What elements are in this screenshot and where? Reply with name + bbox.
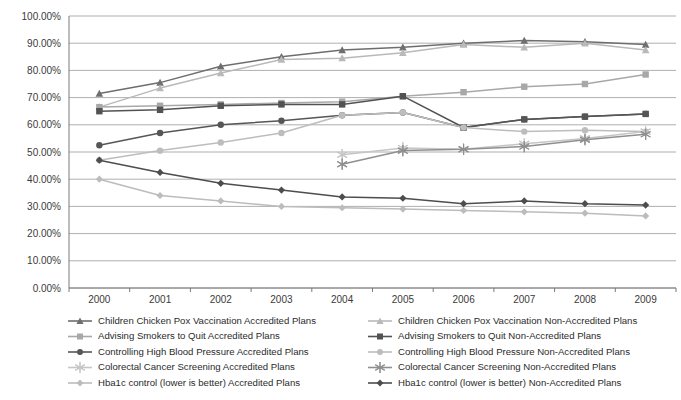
legend-item[interactable]: Children Chicken Pox Vaccination Accredi… — [68, 315, 316, 326]
data-point-circle — [582, 113, 588, 119]
data-point-diamond — [460, 207, 467, 214]
legend-item[interactable]: Colorectal Cancer Screening Non-Accredit… — [368, 361, 616, 373]
data-point-diamond — [642, 201, 649, 208]
data-point-diamond — [156, 192, 163, 199]
x-tick-label: 2004 — [331, 294, 354, 305]
data-point-diamond — [96, 157, 103, 164]
x-axis-tick-labels: 2000200120022003200420052006200720082009 — [69, 288, 676, 305]
data-point-diamond — [377, 380, 384, 387]
series-line — [99, 96, 645, 127]
data-point-square — [77, 334, 83, 340]
data-point-diamond — [278, 203, 285, 210]
data-point-diamond — [339, 193, 346, 200]
data-point-circle — [460, 124, 466, 130]
y-tick-label: 0.00% — [33, 283, 61, 294]
data-point-circle — [400, 109, 406, 115]
data-point-square — [521, 84, 527, 90]
series-line — [99, 113, 645, 161]
data-point-square — [278, 101, 284, 107]
legend-label: Colorectal Cancer Screening Accredited P… — [98, 361, 295, 372]
x-tick-label: 2008 — [574, 294, 597, 305]
x-tick-label: 2007 — [513, 294, 536, 305]
legend-item[interactable]: Hba1c control (lower is better) Non-Accr… — [368, 377, 622, 388]
y-tick-label: 80.00% — [27, 65, 61, 76]
data-point-square — [400, 93, 406, 99]
data-point-square — [377, 334, 383, 340]
x-tick-label: 2002 — [210, 294, 233, 305]
data-point-circle — [96, 142, 102, 148]
line-chart: 0.00%10.00%20.00%30.00%40.00%50.00%60.00… — [0, 0, 681, 400]
x-tick-label: 2009 — [634, 294, 657, 305]
legend-item[interactable]: Hba1c control (lower is better) Accredit… — [68, 377, 300, 388]
y-tick-label: 30.00% — [27, 201, 61, 212]
data-point-square — [157, 107, 163, 113]
y-tick-label: 90.00% — [27, 38, 61, 49]
data-point-diamond — [96, 176, 103, 183]
legend-label: Hba1c control (lower is better) Non-Accr… — [398, 377, 622, 388]
data-point-circle — [278, 118, 284, 124]
legend-label: Controlling High Blood Pressure Accredit… — [98, 346, 309, 357]
legend-label: Controlling High Blood Pressure Non-Accr… — [398, 346, 630, 357]
x-tick-label: 2005 — [392, 294, 415, 305]
data-point-diamond — [521, 208, 528, 215]
data-point-square — [582, 81, 588, 87]
legend-label: Children Chicken Pox Vaccination Accredi… — [98, 315, 316, 326]
data-point-circle — [521, 128, 527, 134]
y-tick-label: 50.00% — [27, 147, 61, 158]
data-point-square — [460, 89, 466, 95]
data-point-circle — [582, 127, 588, 133]
data-point-circle — [157, 147, 163, 153]
legend-item[interactable]: Controlling High Blood Pressure Accredit… — [68, 346, 309, 357]
legend-item[interactable]: Colorectal Cancer Screening Accredited P… — [68, 361, 295, 373]
y-tick-label: 20.00% — [27, 228, 61, 239]
x-tick-label: 2003 — [270, 294, 293, 305]
y-tick-label: 10.00% — [27, 255, 61, 266]
data-point-square — [96, 108, 102, 114]
series-0 — [96, 37, 650, 97]
legend-label: Colorectal Cancer Screening Non-Accredit… — [398, 361, 616, 372]
series-9 — [96, 157, 650, 209]
data-series-group — [96, 37, 651, 220]
legend-item[interactable]: Children Chicken Pox Vaccination Non-Acc… — [368, 315, 637, 326]
y-tick-label: 40.00% — [27, 174, 61, 185]
series-line — [99, 75, 645, 108]
data-point-circle — [339, 112, 345, 118]
x-tick-label: 2006 — [452, 294, 475, 305]
data-point-circle — [521, 116, 527, 122]
data-point-diamond — [642, 212, 649, 219]
series-line — [342, 132, 645, 155]
legend-item[interactable]: Controlling High Blood Pressure Non-Accr… — [368, 346, 630, 357]
y-tick-label: 70.00% — [27, 92, 61, 103]
data-point-diamond — [217, 180, 224, 187]
data-point-diamond — [217, 197, 224, 204]
chart-legend: Children Chicken Pox Vaccination Accredi… — [68, 315, 637, 388]
legend-label: Advising Smokers to Quit Accredited Plan… — [98, 330, 280, 341]
data-point-diamond — [399, 195, 406, 202]
legend-item[interactable]: Advising Smokers to Quit Accredited Plan… — [68, 330, 280, 341]
data-point-diamond — [77, 380, 84, 387]
data-point-circle — [77, 349, 83, 355]
data-point-circle — [642, 111, 648, 117]
data-point-square — [642, 71, 648, 77]
x-tick-label: 2000 — [88, 294, 111, 305]
chart-container: 0.00%10.00%20.00%30.00%40.00%50.00%60.00… — [0, 0, 681, 400]
legend-label: Advising Smokers to Quit Non-Accredited … — [398, 330, 601, 341]
legend-item[interactable]: Advising Smokers to Quit Non-Accredited … — [368, 330, 601, 341]
data-point-diamond — [581, 210, 588, 217]
data-point-circle — [377, 349, 383, 355]
data-point-circle — [278, 130, 284, 136]
x-tick-label: 2001 — [149, 294, 172, 305]
data-point-diamond — [339, 204, 346, 211]
series-line — [99, 160, 645, 205]
data-point-diamond — [521, 197, 528, 204]
legend-label: Children Chicken Pox Vaccination Non-Acc… — [398, 315, 637, 326]
y-tick-label: 60.00% — [27, 119, 61, 130]
data-point-square — [339, 101, 345, 107]
legend-label: Hba1c control (lower is better) Accredit… — [98, 377, 300, 388]
data-point-diamond — [156, 169, 163, 176]
data-point-diamond — [278, 186, 285, 193]
data-point-circle — [218, 139, 224, 145]
data-point-circle — [157, 130, 163, 136]
data-point-square — [218, 103, 224, 109]
y-axis-tick-labels: 0.00%10.00%20.00%30.00%40.00%50.00%60.00… — [22, 11, 62, 294]
